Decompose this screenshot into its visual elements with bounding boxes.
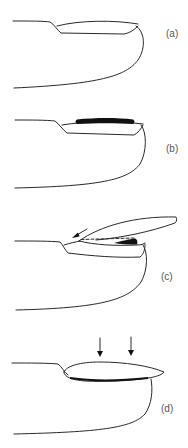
panel-d: (d) [12, 337, 173, 434]
panel-b: (b) [15, 118, 178, 188]
panel-a: (a) [13, 21, 178, 88]
panel-label-d: (d) [161, 403, 173, 414]
nail-plate-underside-shadow [70, 378, 148, 380]
black-wedge [114, 239, 137, 245]
panel-label-b: (b) [166, 143, 178, 154]
panel-label-a: (a) [166, 28, 178, 39]
black-band [76, 118, 135, 124]
finger-tip-contour-a [14, 26, 143, 88]
finger-tip-contour-d [14, 379, 152, 434]
panel-label-c: (c) [161, 271, 173, 282]
arrow-down-icon-right [128, 337, 134, 356]
lifted-nail-plate-upper [79, 217, 177, 241]
finger-dorsal-skin-d [12, 363, 68, 375]
panel-c: (c) [15, 217, 177, 310]
arrow-down-icon-left [97, 338, 103, 357]
nail-plate-top-a [57, 21, 138, 26]
fingernail-diagram: (a) (b) (c) [0, 0, 188, 448]
proximal-fold-line-c [64, 241, 80, 245]
